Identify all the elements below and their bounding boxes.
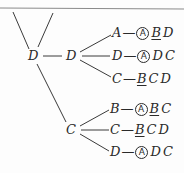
- node-c: C: [66, 123, 76, 137]
- circled-letter: A: [135, 146, 148, 159]
- branch-label: B: [110, 102, 120, 116]
- letter: D: [163, 26, 173, 40]
- letter: C: [161, 102, 171, 116]
- leaf-row: B — A B C: [110, 102, 171, 116]
- dash: —: [121, 123, 134, 137]
- tree-diagram: D D C A — A B D D — A D C C — B C D B — …: [0, 0, 184, 173]
- node-d: D: [66, 49, 76, 63]
- circled-letter: A: [135, 103, 148, 116]
- leaf-row: C — B C D: [110, 123, 169, 137]
- branch-label: D: [112, 49, 122, 63]
- dash: —: [123, 72, 136, 86]
- letter: C: [165, 49, 175, 63]
- circled-letter: A: [136, 27, 149, 40]
- dash: —: [121, 102, 134, 116]
- branch-label: C: [110, 123, 120, 137]
- leaf-row: D — A D C: [112, 49, 175, 63]
- underlined-letter: B: [151, 26, 161, 40]
- leaf-row: A — A B D: [112, 26, 173, 40]
- leaf-row: C — B C D: [112, 72, 171, 86]
- root-node: D: [28, 49, 38, 63]
- letter: D: [158, 123, 168, 137]
- dash: —: [122, 26, 135, 40]
- letter: D: [152, 49, 162, 63]
- leaf-row: D — A D C: [110, 145, 173, 159]
- letter: C: [149, 72, 159, 86]
- branch-label: D: [110, 145, 120, 159]
- circled-letter: A: [137, 50, 150, 63]
- underlined-letter: B: [137, 72, 147, 86]
- letter: C: [163, 145, 173, 159]
- letter: D: [150, 145, 160, 159]
- letter: D: [160, 72, 170, 86]
- branch-label: A: [112, 26, 121, 40]
- branch-label: C: [112, 72, 122, 86]
- dash: —: [123, 49, 136, 63]
- underlined-letter: B: [150, 102, 160, 116]
- dash: —: [121, 145, 134, 159]
- letter: C: [147, 123, 157, 137]
- underlined-letter: B: [135, 123, 145, 137]
